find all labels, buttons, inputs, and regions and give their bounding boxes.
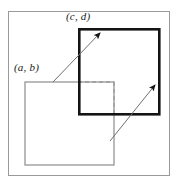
arrow-to-right-edge bbox=[110, 85, 155, 141]
arrow-to-upper-right bbox=[53, 33, 100, 82]
rectangle-intersection-diagram: (c, d) (a, b) bbox=[0, 0, 178, 184]
label-cd: (c, d) bbox=[66, 10, 91, 23]
label-ab: (a, b) bbox=[14, 61, 39, 74]
diagram-canvas: (c, d) (a, b) bbox=[0, 0, 178, 184]
rectangle-ab bbox=[25, 82, 114, 165]
outer-frame bbox=[9, 12, 170, 176]
rectangle-intersection bbox=[78, 82, 114, 115]
